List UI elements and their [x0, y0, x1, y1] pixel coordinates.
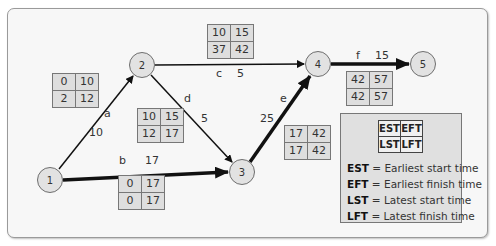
est-e: 17 — [285, 126, 308, 143]
activity-f-duration: 15 — [375, 50, 389, 62]
lst-c: 37 — [208, 42, 231, 59]
activity-b-duration: 17 — [145, 155, 159, 167]
activity-a-name: a — [104, 108, 111, 120]
timebox-c: 1015 3742 — [207, 24, 254, 59]
est-a: 0 — [53, 74, 76, 91]
est-d: 10 — [138, 109, 161, 126]
arrow-c — [155, 64, 304, 65]
activity-b-name: b — [119, 155, 126, 167]
activity-e-name: e — [280, 93, 287, 105]
eft-d: 15 — [161, 109, 184, 126]
lft-e: 42 — [308, 143, 331, 160]
activity-c-name: c — [216, 68, 222, 80]
node-4: 4 — [305, 51, 331, 77]
legend-def-est: EST = Earliest start time — [347, 160, 482, 176]
legend-definitions: EST = Earliest start time EFT = Earliest… — [347, 160, 482, 224]
activity-a-duration: 10 — [89, 127, 103, 139]
est-c: 10 — [208, 25, 231, 42]
est-f: 42 — [347, 72, 370, 89]
lst-b: 0 — [119, 193, 142, 210]
legend-key-table: EST EFT LST LFT — [378, 120, 423, 153]
legend-lft: LFT — [401, 137, 423, 153]
legend-est: EST — [379, 121, 401, 137]
legend: EST EFT LST LFT EST = Earliest start tim… — [340, 113, 462, 223]
lft-c: 42 — [231, 42, 254, 59]
legend-lst: LST — [379, 137, 401, 153]
eft-b: 17 — [142, 176, 165, 193]
timebox-e: 1742 1742 — [284, 125, 331, 160]
legend-def-lft: LFT = Latest finish time — [347, 208, 482, 224]
node-2: 2 — [129, 52, 155, 78]
eft-f: 57 — [370, 72, 393, 89]
activity-c-duration: 5 — [237, 68, 244, 80]
eft-e: 42 — [308, 126, 331, 143]
est-b: 0 — [119, 176, 142, 193]
activity-d-name: d — [184, 93, 191, 105]
legend-def-lst: LST = Latest start time — [347, 192, 482, 208]
lst-e: 17 — [285, 143, 308, 160]
activity-d-duration: 5 — [201, 113, 208, 125]
eft-a: 10 — [76, 74, 99, 91]
activity-f-name: f — [356, 50, 360, 62]
timebox-b: 017 017 — [118, 175, 165, 210]
timebox-f: 4257 4257 — [346, 71, 393, 106]
node-1: 1 — [37, 167, 63, 193]
lst-d: 12 — [138, 126, 161, 143]
lft-f: 57 — [370, 89, 393, 106]
legend-def-eft: EFT = Earliest finish time — [347, 176, 482, 192]
lst-a: 2 — [53, 91, 76, 108]
node-5: 5 — [410, 51, 436, 77]
node-3: 3 — [229, 159, 255, 185]
lft-d: 17 — [161, 126, 184, 143]
eft-c: 15 — [231, 25, 254, 42]
lft-b: 17 — [142, 193, 165, 210]
lft-a: 12 — [76, 91, 99, 108]
timebox-a: 010 212 — [52, 73, 99, 108]
lst-f: 42 — [347, 89, 370, 106]
legend-eft: EFT — [401, 121, 423, 137]
timebox-d: 1015 1217 — [137, 108, 184, 143]
activity-e-duration: 25 — [260, 113, 274, 125]
